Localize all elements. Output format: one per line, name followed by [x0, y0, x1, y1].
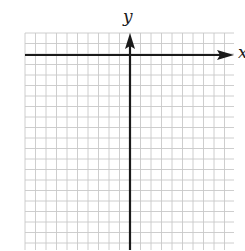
x-axis-label: x: [238, 44, 245, 61]
y-axis-label: y: [123, 8, 133, 25]
y-axis: [125, 33, 135, 250]
coordinate-plane: [0, 0, 245, 251]
